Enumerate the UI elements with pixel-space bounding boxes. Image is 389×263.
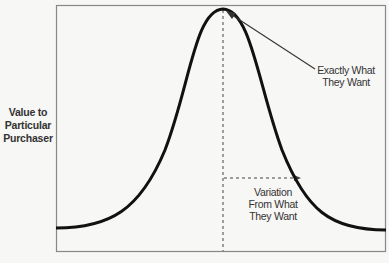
- y-axis-label: Value to Particular Purchaser: [0, 106, 56, 145]
- annotation-line: From What: [238, 198, 308, 210]
- annotation-line: They Want: [238, 210, 308, 222]
- peak-leader-line: [229, 13, 315, 69]
- bell-curve: [56, 9, 386, 230]
- plot-frame: [57, 6, 386, 252]
- bell-curve-diagram: [0, 0, 389, 263]
- y-axis-label-line: Value to: [0, 106, 56, 119]
- annotation-line: They Want: [310, 76, 382, 88]
- y-axis-label-line: Particular: [0, 119, 56, 132]
- peak-annotation: Exactly What They Want: [310, 64, 382, 88]
- annotation-line: Exactly What: [310, 64, 382, 76]
- y-axis-label-line: Purchaser: [0, 132, 56, 145]
- variation-annotation: Variation From What They Want: [238, 186, 308, 222]
- annotation-line: Variation: [238, 186, 308, 198]
- peak-arrowhead-icon: [226, 11, 236, 19]
